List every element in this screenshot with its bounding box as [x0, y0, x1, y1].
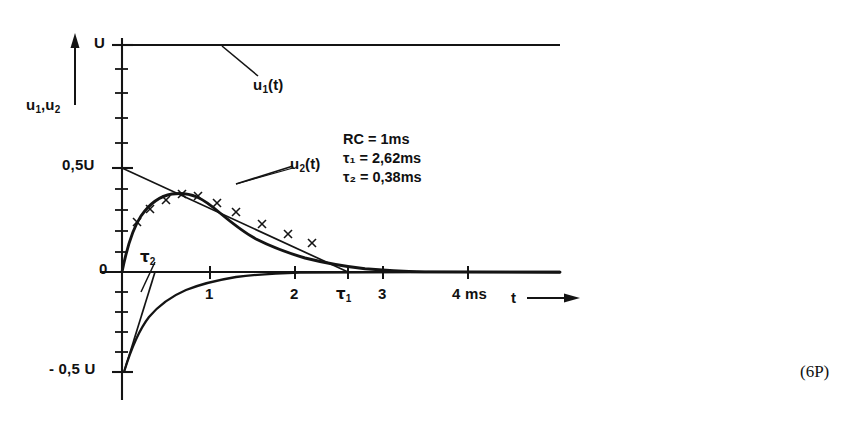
x-tick-label-4ms: 4 ms	[452, 285, 487, 302]
x-tick-label-2: 2	[290, 285, 299, 302]
curve-label-u2-base: u	[290, 155, 299, 172]
curve-label-tau2: τ2	[140, 248, 155, 267]
tau1-symbol: τ	[336, 285, 346, 303]
x-axis-arrow-icon	[527, 294, 580, 303]
parameter-row-tau1: τ₁ = 2,62ms	[343, 149, 422, 168]
curve-label-u2-suffix: (t)	[305, 155, 321, 172]
axes-group	[71, 33, 581, 400]
tau2-subscript: 2	[150, 256, 156, 267]
y-axis-title-u2: u2	[45, 96, 60, 113]
curve-label-u2: u2(t)	[290, 155, 321, 174]
y-axis-arrow-icon	[71, 33, 80, 105]
y-axis-title: u1,u2	[26, 96, 60, 115]
tau1-subscript: 1	[346, 293, 352, 304]
leader-line-u2-b	[236, 168, 293, 184]
x-tick-label-1: 1	[205, 285, 214, 302]
parameter-row-tau2: τ₂ = 0,38ms	[343, 168, 422, 187]
y-tick-label-U: U	[94, 34, 105, 51]
curve-u2	[122, 193, 560, 272]
points-note: (6P)	[800, 362, 829, 382]
y-axis-title-u1: u1	[26, 96, 41, 113]
tangent-line-tau1	[122, 168, 348, 272]
x-tick-label-tau1: τ1	[336, 285, 351, 304]
parameter-row-rc: RC = 1ms	[343, 130, 422, 149]
leader-line-u1	[222, 46, 258, 76]
figure-root: u1,u2 U 0,5U 0 - 0,5 U 1 2 3 4 ms τ1 t u…	[0, 0, 868, 430]
tau2-symbol: τ	[140, 248, 150, 266]
x-tick-label-3: 3	[378, 285, 387, 302]
step-response-plot	[0, 0, 868, 430]
curve-label-u1: u1(t)	[253, 76, 284, 95]
curve-label-u1-base: u	[253, 76, 262, 93]
curve-label-u1-suffix: (t)	[268, 76, 284, 93]
parameter-block: RC = 1ms τ₁ = 2,62ms τ₂ = 0,38ms	[343, 130, 422, 187]
x-axis-title: t	[511, 289, 516, 306]
y-tick-label-zero: 0	[99, 260, 108, 277]
y-tick-label-half-U: 0,5U	[62, 156, 95, 173]
y-tick-label-neg-half-U: - 0,5 U	[49, 360, 95, 377]
